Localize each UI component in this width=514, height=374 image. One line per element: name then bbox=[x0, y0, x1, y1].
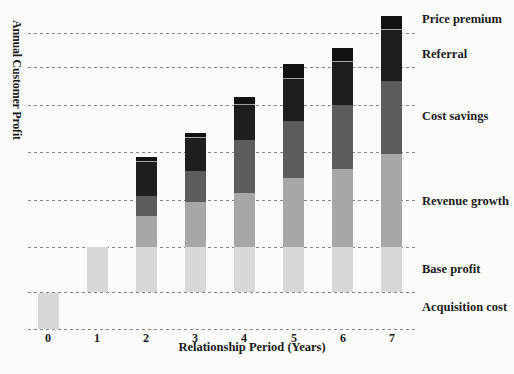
bar-segment-revenue-growth bbox=[136, 216, 157, 247]
bar-segment-price-premium bbox=[283, 64, 304, 79]
bar-segment-cost-savings bbox=[234, 140, 255, 193]
x-tick-label: 7 bbox=[377, 331, 407, 346]
gridline bbox=[28, 329, 418, 330]
bar-segment-base-profit bbox=[87, 247, 108, 292]
gridline bbox=[28, 33, 418, 34]
gridline bbox=[28, 67, 418, 68]
bar-segment-revenue-growth bbox=[234, 193, 255, 247]
bar-segment-cost-savings bbox=[381, 80, 402, 154]
bar-segment-revenue-growth bbox=[283, 178, 304, 247]
band-label-revenue-growth: Revenue growth bbox=[422, 194, 509, 208]
bar-segment-cost-savings bbox=[136, 195, 157, 216]
bar-segment-price-premium bbox=[332, 48, 353, 62]
bar-segment-referral bbox=[381, 30, 402, 81]
bar-segment-base-profit bbox=[381, 247, 402, 292]
bar-segment-referral bbox=[234, 105, 255, 140]
bar-segment-cost-savings bbox=[185, 171, 206, 202]
bar-segment-referral bbox=[136, 162, 157, 196]
bar-segment-revenue-growth bbox=[381, 154, 402, 247]
bar-segment-referral bbox=[332, 62, 353, 105]
x-tick-label: 0 bbox=[33, 331, 63, 346]
x-tick-label: 2 bbox=[131, 331, 161, 346]
bar-segment-revenue-growth bbox=[332, 169, 353, 247]
bar-segment-acquisition-cost bbox=[38, 293, 59, 329]
bar-segment-price-premium bbox=[381, 16, 402, 30]
band-label-price-premium: Price premium bbox=[422, 12, 502, 26]
y-axis-title: Annual Customer Profit bbox=[8, 20, 24, 138]
bar-segment-base-profit bbox=[234, 247, 255, 292]
band-label-referral: Referral bbox=[422, 47, 467, 61]
bar-segment-base-profit bbox=[136, 247, 157, 292]
gridline bbox=[28, 105, 418, 106]
bar-segment-cost-savings bbox=[332, 105, 353, 169]
band-label-acquisition-cost: Acquisition cost bbox=[422, 300, 507, 314]
bar-segment-price-premium bbox=[136, 157, 157, 162]
band-label-base-profit: Base profit bbox=[422, 262, 480, 276]
gridline bbox=[28, 152, 418, 153]
bar-segment-base-profit bbox=[185, 247, 206, 292]
x-tick-label: 1 bbox=[82, 331, 112, 346]
bar-segment-price-premium bbox=[234, 97, 255, 105]
customer-profit-chart: Annual Customer Profit Relationship Peri… bbox=[0, 0, 514, 374]
x-tick-label: 4 bbox=[229, 331, 259, 346]
bar-segment-referral bbox=[283, 78, 304, 121]
band-label-cost-savings: Cost savings bbox=[422, 109, 488, 123]
bar-segment-base-profit bbox=[283, 247, 304, 292]
bar-segment-price-premium bbox=[185, 133, 206, 138]
gridline bbox=[28, 292, 418, 293]
x-tick-label: 5 bbox=[279, 331, 309, 346]
bar-segment-revenue-growth bbox=[185, 202, 206, 247]
bar-segment-cost-savings bbox=[283, 121, 304, 178]
x-tick-label: 3 bbox=[180, 331, 210, 346]
x-tick-label: 6 bbox=[328, 331, 358, 346]
bar-segment-base-profit bbox=[332, 247, 353, 292]
bar-segment-referral bbox=[185, 138, 206, 171]
gridline bbox=[28, 200, 418, 201]
